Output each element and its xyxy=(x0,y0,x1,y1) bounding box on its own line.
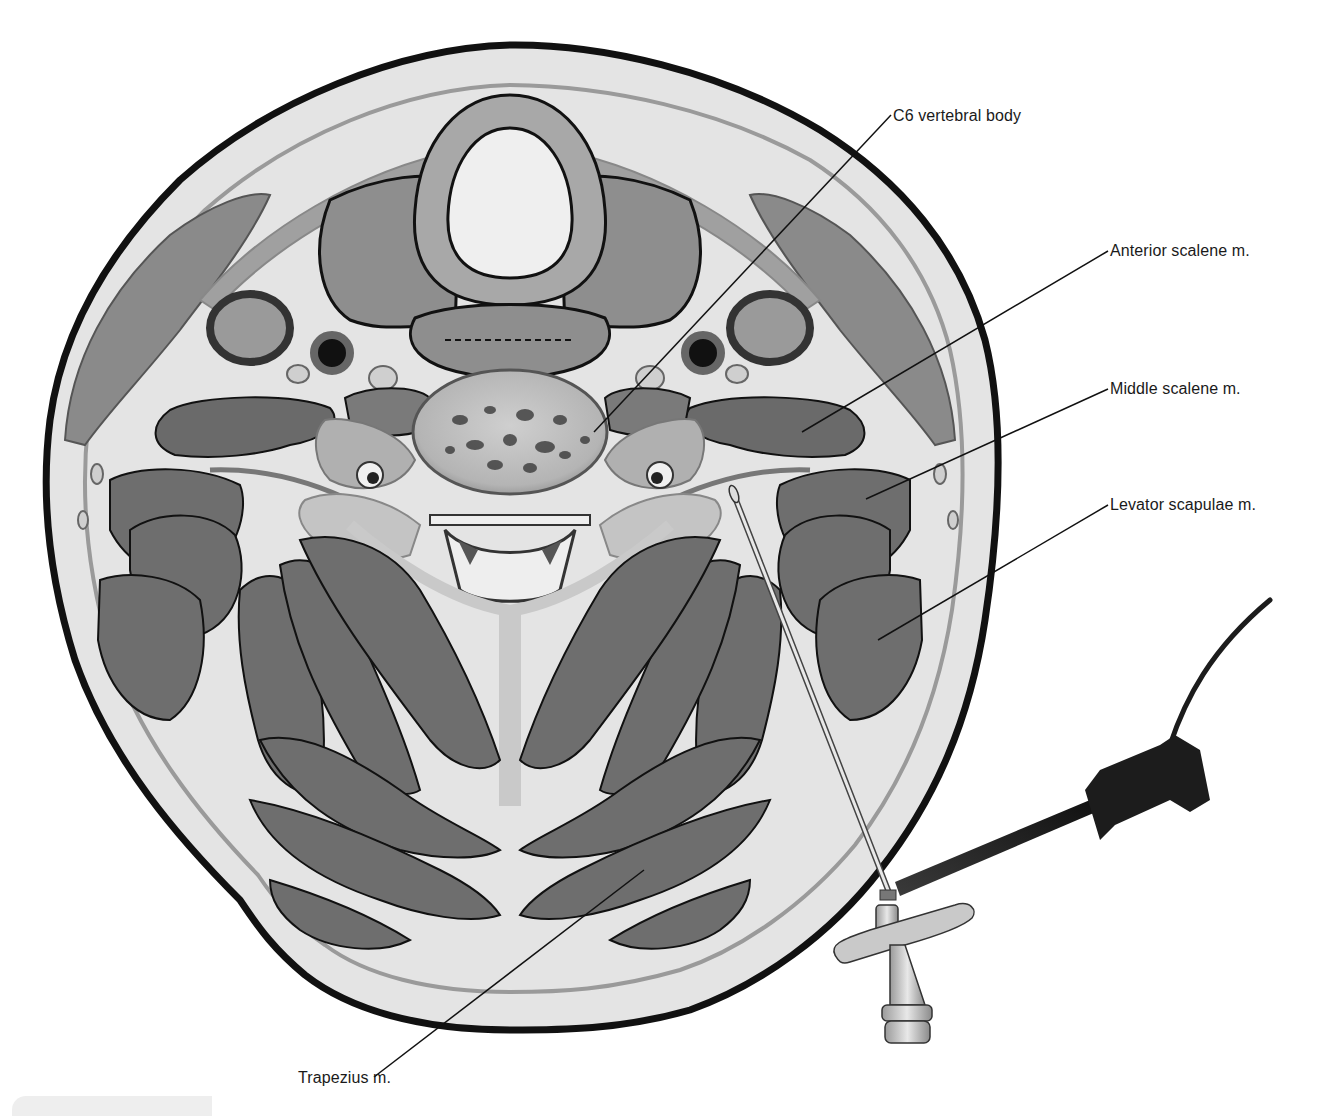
c6-vertebral-body xyxy=(413,370,607,494)
label-trapezius: Trapezius m. xyxy=(298,1069,391,1087)
label-middle-scalene: Middle scalene m. xyxy=(1110,380,1241,398)
esophagus xyxy=(410,305,609,379)
label-c6-vertebral-body: C6 vertebral body xyxy=(893,107,1021,125)
needle-hub xyxy=(834,890,974,1043)
page-corner-tab xyxy=(12,1096,212,1116)
label-levator-scapulae: Levator scapulae m. xyxy=(1110,496,1256,514)
label-anterior-scalene: Anterior scalene m. xyxy=(1110,242,1250,260)
